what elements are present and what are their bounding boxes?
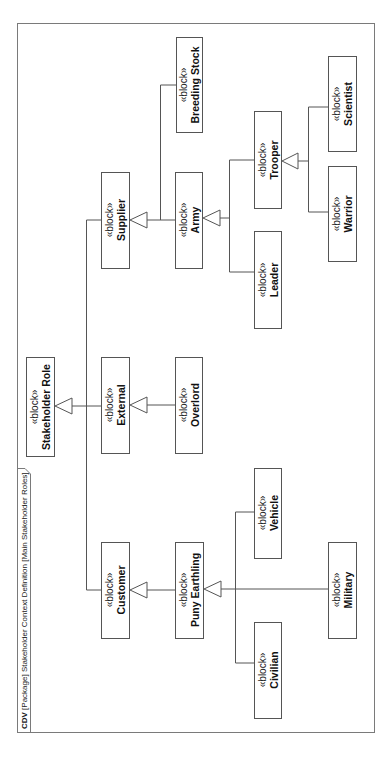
svg-text:«block»: «block» xyxy=(178,572,189,607)
svg-text:«block»: «block» xyxy=(178,202,189,237)
generalization-arrow-icon xyxy=(130,397,147,413)
svg-text:«block»: «block» xyxy=(178,387,189,422)
generalization-arrow-icon xyxy=(203,210,220,226)
block-vehicle[interactable]: «block» Vehicle xyxy=(255,469,282,559)
block-army[interactable]: «block» Army xyxy=(176,173,203,269)
block-breeding-stock[interactable]: «block» Breeding Stock xyxy=(177,38,203,133)
generalization-arrow-icon xyxy=(282,153,298,169)
gen-bus-army xyxy=(230,160,255,272)
svg-text:«block»: «block» xyxy=(331,196,342,231)
svg-text:«block»: «block» xyxy=(331,86,342,121)
generalization-arrow-icon xyxy=(204,581,221,597)
svg-text:Vehicle: Vehicle xyxy=(268,495,280,531)
svg-text:Stakeholder Role: Stakeholder Role xyxy=(40,364,52,450)
block-scientist[interactable]: «block» Scientist xyxy=(329,57,357,152)
block-customer[interactable]: «block» Customer xyxy=(102,543,130,639)
svg-text:Breeding Stock: Breeding Stock xyxy=(189,46,201,123)
svg-text:«block»: «block» xyxy=(257,495,268,530)
svg-text:Military: Military xyxy=(342,571,354,608)
svg-text:«block»: «block» xyxy=(29,389,40,424)
svg-text:External: External xyxy=(115,384,127,426)
svg-text:Overlord: Overlord xyxy=(189,383,201,427)
gen-bus-puny-earthling xyxy=(236,512,255,663)
svg-text:Army: Army xyxy=(189,206,201,233)
diagram-header: CDV [Package] Stakeholder Context Defini… xyxy=(20,472,29,729)
block-puny-earthling[interactable]: «block» Puny Earthling xyxy=(176,543,204,639)
gen-bus-root xyxy=(87,220,102,590)
block-trooper[interactable]: «block» Trooper xyxy=(255,112,282,209)
svg-text:«block»: «block» xyxy=(331,572,342,607)
svg-text:Civilian: Civilian xyxy=(268,651,280,688)
svg-text:Trooper: Trooper xyxy=(268,140,280,179)
block-stakeholder-role[interactable]: «block» Stakeholder Role xyxy=(27,358,55,457)
svg-text:«block»: «block» xyxy=(104,572,115,607)
svg-text:«block»: «block» xyxy=(257,262,268,297)
block-warrior[interactable]: «block» Warrior xyxy=(329,167,357,262)
block-civilian[interactable]: «block» Civilian xyxy=(255,623,282,719)
svg-text:«block»: «block» xyxy=(104,202,115,237)
svg-text:«block»: «block» xyxy=(257,142,268,177)
generalization-arrow-icon xyxy=(55,398,72,414)
generalization-arrow-icon xyxy=(130,212,147,228)
svg-text:«block»: «block» xyxy=(104,387,115,422)
gen-bus-trooper xyxy=(309,107,329,212)
svg-text:Warrior: Warrior xyxy=(342,196,354,233)
svg-text:Supplier: Supplier xyxy=(115,199,127,241)
block-supplier[interactable]: «block» Supplier xyxy=(102,173,130,269)
gen-line-breeding-stock xyxy=(161,85,177,220)
svg-text:Scientist: Scientist xyxy=(342,82,354,126)
svg-text:Customer: Customer xyxy=(115,565,127,614)
block-definition-diagram: CDV [Package] Stakeholder Context Defini… xyxy=(0,0,387,758)
svg-text:«block»: «block» xyxy=(257,652,268,687)
block-overlord[interactable]: «block» Overlord xyxy=(176,358,203,454)
svg-text:Puny Earthling: Puny Earthling xyxy=(189,553,201,627)
svg-text:«block»: «block» xyxy=(178,67,189,102)
svg-text:Leader: Leader xyxy=(268,263,280,297)
block-leader[interactable]: «block» Leader xyxy=(255,232,282,329)
block-external[interactable]: «block» External xyxy=(102,358,130,454)
block-military[interactable]: «block» Military xyxy=(329,543,357,639)
generalization-arrow-icon xyxy=(130,582,147,598)
